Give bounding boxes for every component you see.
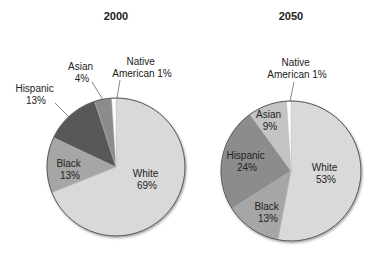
- label-native-2000: Native American 1%: [112, 56, 172, 79]
- label-hispanic-2000: Hispanic 13%: [15, 83, 56, 106]
- leader-hispanic-2000: [55, 103, 70, 118]
- label-black-2000: Black 13%: [56, 158, 83, 181]
- label-white-2050: White 53%: [312, 162, 340, 185]
- label-asian-2000: Asian 4%: [68, 61, 96, 84]
- label-white-2000: White 69%: [133, 168, 161, 191]
- leader-native-2000: [117, 80, 120, 98]
- label-native-2050: Native American 1%: [267, 57, 327, 80]
- label-black-2050: Black 13%: [254, 201, 281, 224]
- leader-native-2050: [290, 82, 294, 101]
- pie-charts: Native American 1% Asian 4% Hispanic 13%…: [0, 0, 382, 259]
- leader-asian-2000: [92, 82, 103, 100]
